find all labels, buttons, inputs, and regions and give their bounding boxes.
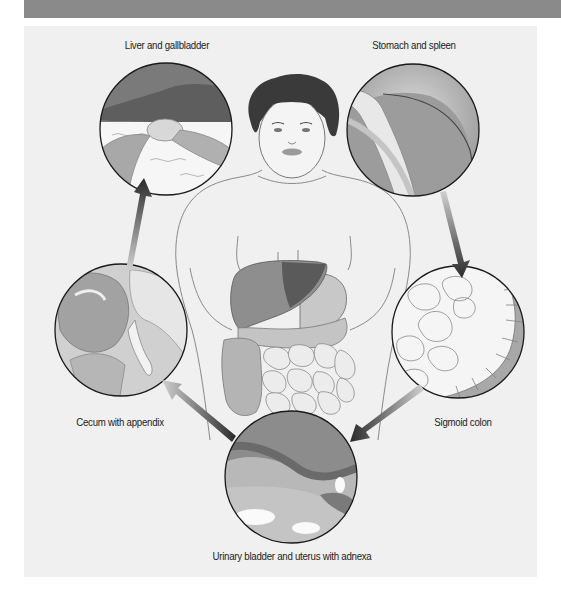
arrow-cecum-to-liver (126, 178, 152, 270)
head (248, 74, 339, 178)
bladder-uterus-circle (225, 411, 357, 543)
label-bladder-uterus-adnexa: Urinary bladder and uterus with adnexa (190, 550, 394, 562)
label-sigmoid-colon: Sigmoid colon (425, 416, 501, 428)
cecum-appendix-circle (55, 264, 188, 396)
sigmoid-colon-circle (392, 266, 527, 410)
label-cecum-appendix: Cecum with appendix (67, 416, 173, 428)
anatomy-illustration (0, 0, 561, 605)
liver-gallbladder-circle (100, 63, 232, 195)
label-liver-gallbladder: Liver and gallbladder (115, 39, 219, 51)
arrow-sigmoid-to-bladder (350, 384, 424, 442)
central-organs (222, 261, 355, 416)
label-stomach-spleen: Stomach and spleen (365, 39, 464, 51)
arrow-stomach-to-sigmoid (440, 191, 470, 278)
stomach-spleen-circle (347, 64, 479, 196)
